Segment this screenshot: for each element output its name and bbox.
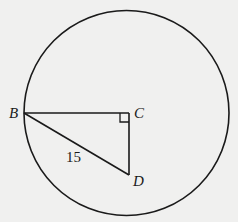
point-label-b: B [9, 105, 18, 121]
geometry-figure: B C D 15 [0, 0, 238, 222]
point-label-d: D [132, 173, 144, 189]
segment-bd [24, 113, 129, 175]
length-label-bd: 15 [66, 149, 81, 165]
figure-canvas: B C D 15 [0, 0, 238, 222]
right-angle-marker [120, 113, 129, 122]
point-label-c: C [134, 105, 145, 121]
